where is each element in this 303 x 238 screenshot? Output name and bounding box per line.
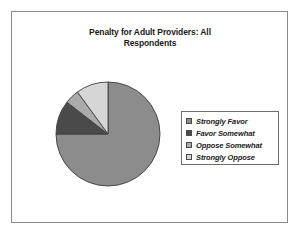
legend-label: Strongly Oppose [196,153,255,162]
legend-item-strongly-oppose: Strongly Oppose [186,151,278,163]
legend-swatch-icon [186,154,192,160]
pie-chart [45,72,175,202]
legend-item-favor-somewhat: Favor Somewhat [186,127,278,139]
figure-root: Penalty for Adult Providers: All Respond… [0,0,303,238]
chart-title: Penalty for Adult Providers: All Respond… [52,27,248,49]
chart-title-line-1: Penalty for Adult Providers: All [52,27,248,38]
legend-item-strongly-favor: Strongly Favor [186,115,278,127]
pie-chart-svg [45,72,175,202]
chart-title-line-2: Respondents [52,38,248,49]
legend-item-oppose-somewhat: Oppose Somewhat [186,139,278,151]
chart-frame: Penalty for Adult Providers: All Respond… [11,11,288,223]
legend-swatch-icon [186,142,192,148]
chart-legend: Strongly Favor Favor Somewhat Oppose Som… [181,111,279,165]
legend-label: Strongly Favor [196,117,248,126]
legend-label: Oppose Somewhat [196,141,262,150]
legend-label: Favor Somewhat [196,129,255,138]
pie-slice-group [56,82,160,186]
legend-swatch-icon [186,118,192,124]
legend-swatch-icon [186,130,192,136]
